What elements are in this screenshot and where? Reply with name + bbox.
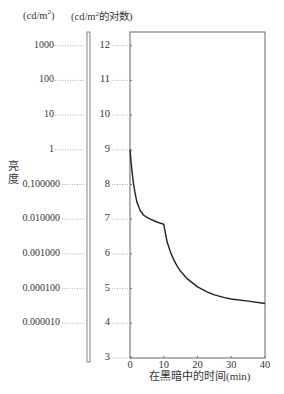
axis-ticks	[130, 46, 265, 358]
dark-adaptation-curve	[130, 150, 265, 304]
scale-bar	[87, 32, 90, 362]
chart-canvas	[0, 0, 284, 394]
dotted-leader-lines	[55, 46, 128, 358]
plot-frame	[130, 32, 265, 358]
